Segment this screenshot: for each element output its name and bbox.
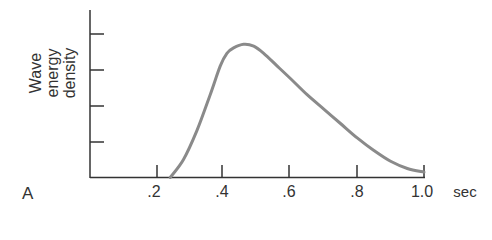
y-label-line-3: density xyxy=(61,28,78,118)
x-tick-label-0.6: .6 xyxy=(282,183,295,201)
energy-density-curve xyxy=(170,44,424,177)
y-label-line-1: Wave xyxy=(27,28,44,118)
x-tick-label-0.2: .2 xyxy=(147,183,160,201)
x-ticks xyxy=(157,165,424,178)
x-tick-label-0.4: .4 xyxy=(215,183,228,201)
y-axis-label: Wave energy density xyxy=(27,28,78,118)
y-label-line-2: energy xyxy=(44,28,61,118)
panel-label: A xyxy=(22,184,33,204)
y-ticks xyxy=(90,34,104,142)
x-tick-label-1.0: 1.0 xyxy=(411,183,433,201)
x-tick-label-0.8: .8 xyxy=(350,183,363,201)
x-axis-unit-label: sec xyxy=(453,183,476,200)
